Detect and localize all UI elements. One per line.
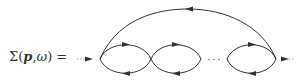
arrow-right-icon <box>281 56 289 61</box>
arrow-right-icon <box>85 56 93 61</box>
feynman-diagram: Σ(p,ω) = <box>0 0 304 84</box>
bubble-loop-2 <box>151 42 201 76</box>
incoming-external-line <box>77 56 93 61</box>
diagram-graphics <box>0 0 304 84</box>
arrow-right-icon <box>172 42 180 47</box>
outgoing-external-line <box>281 56 295 61</box>
arrow-left-icon <box>248 71 256 76</box>
arrow-left-icon <box>122 71 130 76</box>
bubble-loop-1 <box>100 42 151 76</box>
arrow-left-icon <box>172 71 180 76</box>
arrow-left-icon <box>185 6 193 11</box>
arrow-right-icon <box>248 42 256 47</box>
ellipsis <box>208 59 219 60</box>
bubble-loop-n <box>227 42 276 76</box>
arrow-right-icon <box>122 42 130 47</box>
top-arc-propagator <box>100 6 276 59</box>
